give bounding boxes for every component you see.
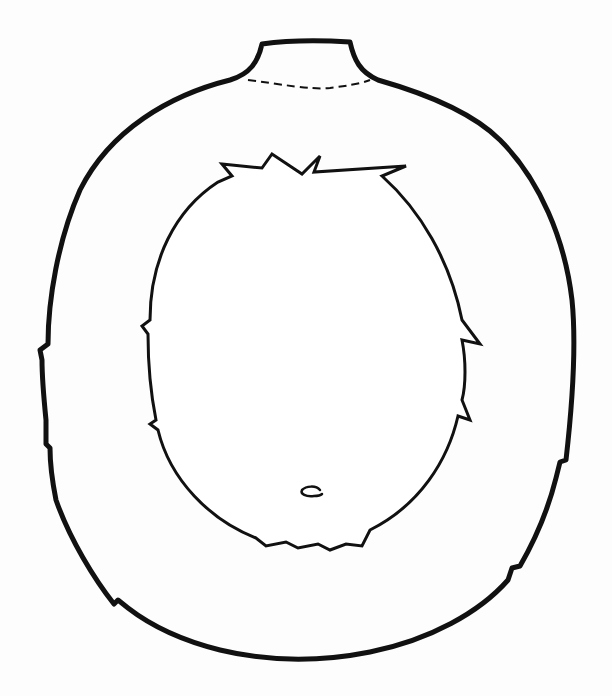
line-drawing-canvas: Costume body outline with face cut-out [0,0,612,696]
dashed-fold-line [248,80,370,88]
face-opening [142,154,480,550]
costume-outline-drawing [0,0,612,696]
